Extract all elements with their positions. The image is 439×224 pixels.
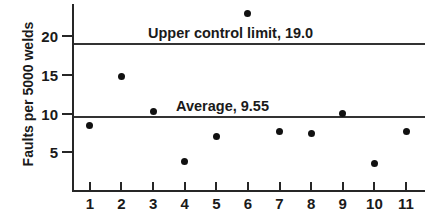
y-tick-15	[62, 74, 72, 76]
data-point	[181, 158, 188, 165]
data-point	[86, 122, 93, 129]
x-tick-4	[184, 182, 186, 191]
x-tick-label-7: 7	[266, 196, 294, 211]
data-point	[276, 128, 283, 135]
x-tick-9	[342, 182, 344, 191]
data-point	[371, 160, 378, 167]
x-tick-7	[279, 182, 281, 191]
data-point	[403, 128, 410, 135]
upper-control-limit-label: Upper control limit, 19.0	[148, 26, 313, 41]
average-label: Average, 9.55	[176, 99, 269, 114]
x-tick-11	[405, 182, 407, 191]
y-tick-5	[62, 151, 72, 153]
upper-control-limit-line	[74, 43, 425, 45]
y-tick-label-15: 15	[28, 68, 58, 83]
y-tick-label-5: 5	[28, 145, 58, 160]
x-tick-label-2: 2	[107, 196, 135, 211]
y-tick-20	[62, 35, 72, 37]
data-point	[244, 10, 251, 17]
x-tick-10	[373, 182, 375, 191]
x-tick-2	[120, 182, 122, 191]
data-point	[213, 133, 220, 140]
x-tick-5	[215, 182, 217, 191]
x-tick-label-8: 8	[297, 196, 325, 211]
y-tick-label-10: 10	[28, 107, 58, 122]
x-tick-label-10: 10	[360, 196, 388, 211]
x-tick-1	[89, 182, 91, 191]
x-tick-8	[310, 182, 312, 191]
x-tick-label-1: 1	[76, 196, 104, 211]
data-point	[118, 73, 125, 80]
average-line	[74, 116, 425, 118]
x-tick-6	[247, 182, 249, 191]
y-tick-10	[62, 113, 72, 115]
x-tick-label-11: 11	[392, 196, 420, 211]
x-tick-label-3: 3	[139, 196, 167, 211]
data-point	[308, 130, 315, 137]
control-chart: Faults per 5000 welds 5101520 1234567891…	[0, 0, 439, 224]
x-tick-label-5: 5	[202, 196, 230, 211]
x-tick-label-4: 4	[171, 196, 199, 211]
y-axis-line	[72, 4, 74, 192]
x-tick-label-9: 9	[329, 196, 357, 211]
data-point	[150, 108, 157, 115]
y-tick-label-20: 20	[28, 29, 58, 44]
x-tick-3	[152, 182, 154, 191]
x-tick-label-6: 6	[234, 196, 262, 211]
